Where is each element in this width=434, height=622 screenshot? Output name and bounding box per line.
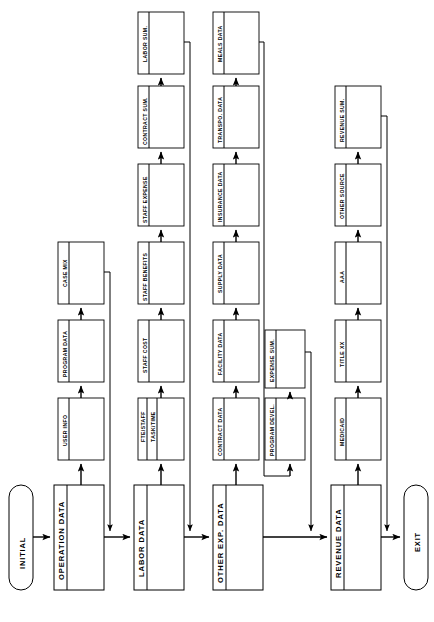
node-staff-expense[interactable]: STAFF EXPENSE: [138, 164, 184, 226]
node-title-xx[interactable]: TITLE XX: [335, 320, 381, 382]
node-meals-data-label: MEALS DATA: [217, 25, 223, 62]
node-supply-data[interactable]: SUPPLY DATA: [213, 242, 259, 304]
node-user-info-label: USER INFO: [62, 415, 68, 446]
node-facility-data-label: FACILITY DATA: [217, 332, 223, 375]
node-fte-staff-task-time[interactable]: FTE/STAFF TASK/TIME: [138, 398, 184, 460]
node-program-devel[interactable]: PROGRAM DEVEL.: [265, 398, 305, 460]
node-fte-staff-label-line2: TASK/TIME: [150, 411, 156, 442]
node-user-info[interactable]: USER INFO: [58, 398, 104, 460]
return-path-revenue: [381, 116, 387, 531]
block-revenue-data[interactable]: REVENUE DATA: [331, 485, 381, 590]
node-expense-sum[interactable]: EXPENSE SUM.: [265, 330, 305, 388]
node-insurance-data-label: INSURANCE DATA: [217, 171, 223, 222]
row-revenue: MEDICAID TITLE XX AAA OTHER SOURCE: [335, 86, 387, 531]
node-staff-expense-label: STAFF EXPENSE: [142, 176, 148, 223]
node-contract-sum-label: CONTRACT SUM.: [142, 97, 148, 145]
node-revenue-sum-label: REVENUE SUM.: [339, 98, 345, 142]
node-facility-data[interactable]: FACILITY DATA: [213, 320, 259, 382]
node-case-mix[interactable]: CASE MIX: [58, 242, 104, 304]
node-program-devel-label: PROGRAM DEVEL.: [269, 404, 275, 456]
row-labor: FTE/STAFF TASK/TIME STAFF COST STAFF BEN…: [138, 12, 190, 531]
node-staff-cost[interactable]: STAFF COST: [138, 320, 184, 382]
block-other-exp-data-label: OTHER EXP. DATA: [216, 502, 225, 583]
node-medicaid[interactable]: MEDICAID: [335, 398, 381, 460]
node-expense-sum-label: EXPENSE SUM.: [269, 339, 275, 382]
node-transpo-data-label: TRANSPO. DATA: [217, 97, 223, 143]
node-program-data-label: PROGRAM DATA: [62, 331, 68, 377]
block-other-exp-data[interactable]: OTHER EXP. DATA: [213, 485, 263, 590]
terminator-initial-label: INITIAL: [18, 537, 27, 569]
return-path-operation: [104, 272, 110, 531]
node-labor-sum-label: LABOR SUM.: [142, 26, 148, 62]
node-program-data[interactable]: PROGRAM DATA: [58, 320, 104, 382]
block-operation-data-label: OPERATION DATA: [57, 501, 66, 580]
node-fte-staff-label-line1: FTE/STAFF: [140, 411, 146, 442]
row-expense-branch: PROGRAM DEVEL. EXPENSE SUM.: [265, 330, 311, 531]
node-aaa[interactable]: AAA: [335, 242, 381, 304]
node-contract-data[interactable]: CONTRACT DATA: [213, 398, 259, 460]
return-path-labor: [184, 42, 190, 531]
diagram-canvas: INITIAL OPERATION DATA LABOR DATA OTHER …: [0, 0, 434, 622]
node-aaa-label: AAA: [339, 271, 345, 283]
node-insurance-data[interactable]: INSURANCE DATA: [213, 164, 259, 226]
block-revenue-data-label: REVENUE DATA: [334, 508, 343, 578]
node-case-mix-label: CASE MIX: [62, 259, 68, 287]
node-staff-benefits[interactable]: STAFF BENEFITS: [138, 242, 184, 304]
node-title-xx-label: TITLE XX: [339, 341, 345, 367]
node-contract-sum[interactable]: CONTRACT SUM.: [138, 86, 184, 148]
terminator-initial: INITIAL: [9, 485, 33, 590]
return-path-expense-sum: [305, 352, 311, 531]
block-labor-data-label: LABOR DATA: [137, 519, 146, 577]
terminator-exit: EXIT: [404, 485, 428, 590]
node-transpo-data[interactable]: TRANSPO. DATA: [213, 86, 259, 148]
node-revenue-sum[interactable]: REVENUE SUM.: [335, 86, 381, 148]
block-operation-data[interactable]: OPERATION DATA: [54, 485, 104, 590]
node-staff-cost-label: STAFF COST: [142, 337, 148, 373]
node-medicaid-label: MEDICAID: [339, 418, 345, 446]
flow-diagram: INITIAL OPERATION DATA LABOR DATA OTHER …: [0, 0, 434, 622]
terminator-exit-label: EXIT: [413, 532, 422, 552]
node-other-source[interactable]: OTHER SOURCE: [335, 164, 381, 226]
block-labor-data[interactable]: LABOR DATA: [134, 485, 184, 590]
node-contract-data-label: CONTRACT DATA: [217, 407, 223, 456]
node-staff-benefits-label: STAFF BENEFITS: [142, 253, 148, 301]
node-meals-data[interactable]: MEALS DATA: [213, 12, 259, 74]
node-supply-data-label: SUPPLY DATA: [217, 254, 223, 293]
node-labor-sum[interactable]: LABOR SUM.: [138, 12, 184, 74]
node-other-source-label: OTHER SOURCE: [339, 173, 345, 219]
